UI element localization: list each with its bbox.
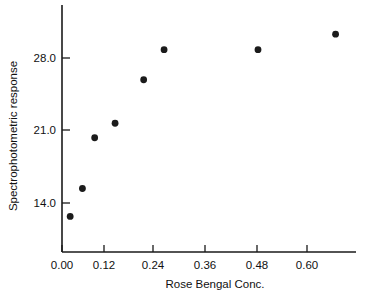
data-point — [332, 31, 339, 38]
plot-canvas: 28.0 21.0 14.0 0.00 0.12 0.24 0.36 0.48 … — [0, 0, 366, 294]
y-axis-title: Spectrophotometric response — [7, 61, 19, 211]
data-point — [67, 213, 74, 220]
data-point — [161, 46, 168, 53]
data-point — [79, 185, 86, 192]
data-point — [112, 120, 119, 127]
scatter-plot-figure: 28.0 21.0 14.0 0.00 0.12 0.24 0.36 0.48 … — [0, 0, 366, 294]
x-tick-label-060: 0.60 — [296, 259, 318, 271]
x-tick-label-0: 0.00 — [51, 259, 73, 271]
x-tick-label-048: 0.48 — [246, 259, 268, 271]
y-tick-label-21: 21.0 — [34, 124, 56, 136]
x-axis-title: Rose Bengal Conc. — [165, 278, 264, 290]
x-tick-label-012: 0.12 — [93, 259, 115, 271]
x-tick-label-036: 0.36 — [194, 259, 216, 271]
y-tick-label-28: 28.0 — [34, 52, 56, 64]
data-point — [255, 46, 262, 53]
data-points-group — [67, 31, 339, 220]
data-point — [91, 134, 98, 141]
y-tick-label-14: 14.0 — [34, 197, 56, 209]
data-point — [140, 76, 147, 83]
x-tick-label-024: 0.24 — [142, 259, 165, 271]
